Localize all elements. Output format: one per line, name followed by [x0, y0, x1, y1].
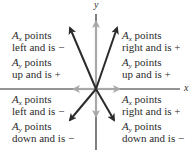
upper-left-ay-desc: up and is + — [12, 68, 61, 80]
upper-right-ax-desc: right and is + — [122, 41, 180, 53]
vector-upper-left-arrow — [70, 28, 96, 89]
vector-lower-left-arrow — [70, 89, 96, 120]
vector-upper-right-arrow — [96, 28, 117, 89]
upper-right-ay-text: Ay points — [122, 56, 162, 68]
lower-left-ay-desc: down and is − — [12, 132, 74, 144]
upper-left-ax-text: Ax points — [12, 29, 52, 41]
lower-right-ay-desc: down and is − — [122, 132, 184, 144]
lower-right-ay-text: Ay points — [122, 120, 162, 132]
vector-lower-right-arrow — [96, 89, 114, 120]
upper-left-ax-desc: left and is − — [12, 41, 64, 53]
lower-left-ax-desc: left and is − — [12, 105, 64, 117]
lower-right-ax-desc: right and is + — [122, 105, 180, 117]
lower-right-ax-text: Ax points — [122, 93, 162, 105]
lower-left-ax-text: Ax points — [12, 93, 52, 105]
x-axis-label: x — [184, 82, 188, 93]
lower-left-ay-text: Ay points — [12, 120, 52, 132]
upper-left-ay-text: Ay points — [12, 56, 52, 68]
upper-right-ax-text: Ax points — [122, 29, 162, 41]
y-axis-label: y — [94, 0, 98, 10]
upper-right-ay-desc: up and is + — [122, 68, 171, 80]
